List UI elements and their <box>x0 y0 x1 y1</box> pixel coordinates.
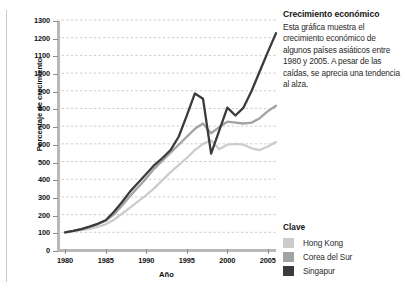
legend-swatch-icon <box>283 266 294 276</box>
y-tick-label: 700 <box>18 123 50 131</box>
y-tick-label: 900 <box>18 88 50 96</box>
y-tick-label: 100 <box>18 229 50 237</box>
legend-title: Clave <box>283 222 405 232</box>
y-tick-label: 400 <box>18 176 50 184</box>
y-tick-label: 600 <box>18 141 50 149</box>
y-tick-label: 200 <box>18 212 50 220</box>
legend-item-label: Corea del Sur <box>303 253 352 262</box>
y-tick-label: 1100 <box>18 52 50 60</box>
series-line-corea-del-sur <box>65 106 276 233</box>
side-panel: Crecimiento económico Esta gráfica muest… <box>283 0 405 290</box>
legend-item-label: Singapur <box>303 267 335 276</box>
legend-swatch-icon <box>283 238 294 248</box>
y-tick-label: 0 <box>18 247 50 255</box>
x-tick-label: 1980 <box>49 256 81 265</box>
plot-svg <box>57 20 276 251</box>
line-chart: Porcentaje de crecimiento Año 0100200300… <box>0 0 276 290</box>
legend-item[interactable]: Singapur <box>283 264 405 278</box>
y-tick-mark <box>53 251 58 252</box>
legend-swatch-icon <box>283 252 294 262</box>
gridlines <box>57 20 276 232</box>
x-tick-label: 1990 <box>130 256 162 265</box>
y-tick-label: 800 <box>18 105 50 113</box>
chart-legend: Clave Hong KongCorea del SurSingapur <box>283 222 405 278</box>
y-tick-label: 1300 <box>18 17 50 25</box>
y-tick-label: 1000 <box>18 70 50 78</box>
legend-item[interactable]: Corea del Sur <box>283 250 405 264</box>
panel-title: Crecimiento económico <box>283 9 405 19</box>
legend-item[interactable]: Hong Kong <box>283 236 405 250</box>
panel-description: Esta gráfica muestra el crecimiento econ… <box>283 22 403 90</box>
y-tick-label: 300 <box>18 194 50 202</box>
x-tick-label: 2005 <box>252 256 284 265</box>
y-tick-label: 500 <box>18 159 50 167</box>
plot-area <box>57 20 276 251</box>
legend-items: Hong KongCorea del SurSingapur <box>283 236 405 278</box>
legend-item-label: Hong Kong <box>303 239 343 248</box>
chart-page: Porcentaje de crecimiento Año 0100200300… <box>0 0 405 290</box>
series-lines <box>65 33 276 232</box>
x-tick-label: 2000 <box>211 256 243 265</box>
x-tick-label: 1995 <box>171 256 203 265</box>
series-line-singapur <box>65 33 276 232</box>
x-tick-label: 1985 <box>90 256 122 265</box>
y-tick-label: 1200 <box>18 35 50 43</box>
x-axis-title: Año <box>57 270 276 279</box>
